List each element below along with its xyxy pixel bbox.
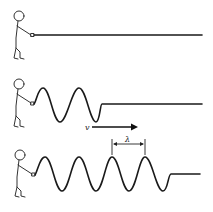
velocity-arrow-icon — [92, 124, 138, 131]
rope-wave-long — [35, 157, 200, 191]
stick-figure-icon — [15, 150, 35, 197]
panel-rest — [14, 11, 202, 59]
rope-wave-short — [34, 88, 202, 122]
stick-figure-icon — [14, 11, 34, 59]
panel-pulse: v — [14, 79, 202, 132]
wavelength-label: λ — [124, 135, 130, 144]
velocity-label: v — [85, 123, 90, 132]
panel-train: λ — [15, 135, 200, 197]
wave-diagram: v λ — [0, 0, 213, 212]
stick-figure-icon — [14, 79, 34, 127]
